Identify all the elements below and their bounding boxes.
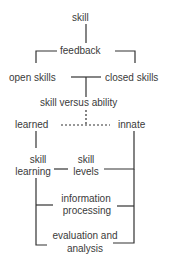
node-learned: learned: [14, 119, 49, 131]
connector-lines: [0, 0, 169, 267]
node-skill-learning-line1: skill: [24, 154, 52, 166]
node-skill-learning-line2: learning: [12, 166, 54, 178]
node-skill: skill: [71, 12, 90, 24]
node-closed-skills: closed skills: [104, 72, 159, 84]
node-open-skills: open skills: [8, 72, 57, 84]
node-innate: innate: [117, 119, 146, 131]
node-skill-levels-line1: skill: [70, 154, 102, 166]
node-information-processing-line2: processing: [58, 205, 116, 217]
node-evaluation-line2: analysis: [62, 243, 108, 255]
node-evaluation-line1: evaluation and: [45, 230, 125, 242]
node-information-processing-line1: information: [55, 193, 117, 205]
node-skill-levels-line2: levels: [68, 166, 104, 178]
node-feedback: feedback: [59, 45, 102, 57]
node-skill-versus-ability: skill versus ability: [39, 97, 118, 109]
